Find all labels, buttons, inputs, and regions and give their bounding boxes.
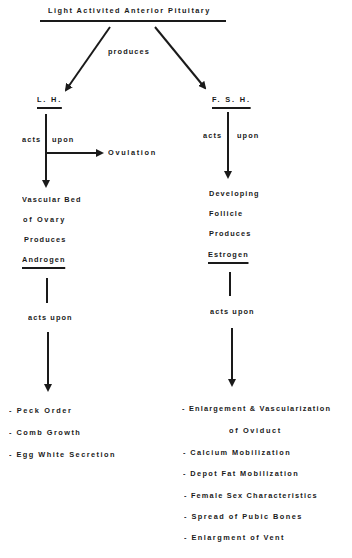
lh-target-line-3: Produces <box>24 235 66 245</box>
androgen-acts-upon-label: acts upon <box>28 313 73 323</box>
estrogen-effect-2: - Calcium Mobilization <box>183 448 291 458</box>
fsh-node: F. S. H. <box>212 95 251 109</box>
androgen-effect-3: - Egg White Secretion <box>9 450 116 460</box>
estrogen-effect-5: - Spread of Pubic Bones <box>184 512 303 522</box>
produces-label: produces <box>108 47 150 57</box>
fsh-upon-label: upon <box>237 131 259 141</box>
estrogen-effect-4: - Female Sex Characteristics <box>184 491 318 501</box>
lh-target-line-1: Vascular Bed <box>22 195 81 205</box>
fsh-target-line-2: Follicle <box>209 209 243 219</box>
lh-node: L. H. <box>37 95 62 109</box>
estrogen-effect-3: - Depot Fat Mobilization <box>183 469 299 479</box>
androgen-effect-1: - Peck Order <box>9 406 73 416</box>
fsh-acts-label: acts <box>203 131 222 141</box>
estrogen-effect-1: - Enlargement & Vascularization <box>182 404 331 414</box>
lh-target-line-2: of Ovary <box>23 215 66 225</box>
estrogen-effect-6: - Enlargment of Vent <box>184 533 285 543</box>
lh-acts-label: acts <box>22 135 41 145</box>
estrogen-node: Estrogen <box>208 250 249 264</box>
androgen-effect-2: - Comb Growth <box>9 428 81 438</box>
connector-lines <box>0 0 352 558</box>
estrogen-effect-1-cont: of Oviduct <box>229 426 282 436</box>
lh-upon-label: upon <box>52 135 74 145</box>
fsh-target-line-1: Developing <box>209 189 260 199</box>
estrogen-acts-upon-label: acts upon <box>210 307 255 317</box>
arrow-to-lh <box>66 27 110 90</box>
ovulation-node: Ovulation <box>108 148 157 158</box>
root-node-label: Light Activited Anterior Pituitary <box>48 6 211 16</box>
arrow-to-fsh <box>155 27 205 88</box>
androgen-node: Androgen <box>22 255 66 269</box>
fsh-target-line-3: Produces <box>209 229 251 239</box>
